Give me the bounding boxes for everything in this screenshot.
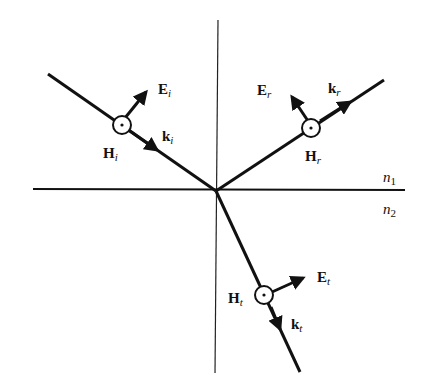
label-n2: n2 xyxy=(383,201,396,219)
reflected-k-arrow xyxy=(320,102,350,121)
label-h-incident: Hi xyxy=(103,145,118,163)
transmitted-ray xyxy=(216,191,300,372)
label-h-transmitted: Ht xyxy=(228,290,244,308)
reflected-ray xyxy=(216,80,384,191)
transmitted-k-arrow xyxy=(271,307,280,329)
label-k-transmitted: kt xyxy=(291,316,303,334)
label-n1: n1 xyxy=(383,169,396,187)
transmitted-e-arrow xyxy=(272,278,303,292)
label-e-transmitted: Et xyxy=(317,269,331,287)
label-e-reflected: Er xyxy=(257,82,272,100)
reflected-e-arrow xyxy=(292,97,308,121)
incident-k-arrow xyxy=(130,131,157,150)
label-k-incident: ki xyxy=(162,128,173,146)
incident-e-arrow xyxy=(125,92,146,118)
label-h-reflected: Hr xyxy=(305,148,322,166)
label-e-incident: Ei xyxy=(158,81,171,99)
label-k-reflected: kr xyxy=(328,80,341,98)
optics-diagram: Ei ki Hi Er kr Hr Et kt Ht n1 n2 xyxy=(0,0,423,392)
